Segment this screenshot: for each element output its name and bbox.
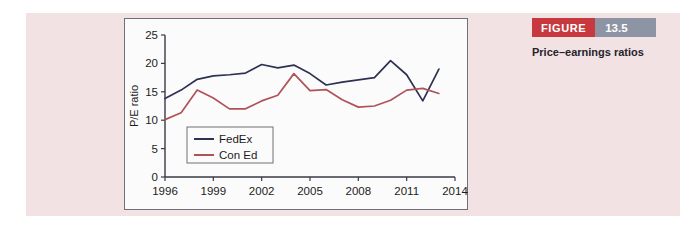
- y-tick-label: 20: [145, 57, 158, 69]
- figure-page: 05101520251996199920022005200820112014P/…: [0, 0, 692, 228]
- x-tick-label: 2011: [394, 185, 419, 197]
- left-gutter: [0, 0, 26, 228]
- x-tick-label: 1996: [152, 185, 178, 197]
- y-tick-label: 5: [152, 143, 158, 155]
- y-axis-title: P/E ratio: [128, 85, 140, 127]
- figure-banner-word: FIGURE: [532, 18, 595, 37]
- figure-caption: Price–earnings ratios: [532, 45, 662, 60]
- y-tick-label: 0: [152, 171, 158, 183]
- figure-banner-number: 13.5: [595, 18, 656, 37]
- y-tick-label: 10: [145, 114, 158, 126]
- y-tick-label: 15: [145, 86, 158, 98]
- x-tick-label: 2008: [346, 185, 372, 197]
- chart-container: 05101520251996199920022005200820112014P/…: [124, 18, 468, 210]
- x-tick-label: 1999: [201, 185, 227, 197]
- x-tick-label: 2014: [442, 185, 468, 197]
- pe-ratio-line-chart: 05101520251996199920022005200820112014P/…: [125, 19, 469, 211]
- x-tick-label: 2002: [249, 185, 275, 197]
- x-tick-label: 2005: [297, 185, 323, 197]
- y-tick-label: 25: [145, 29, 158, 41]
- legend-label-fedex: FedEx: [219, 133, 252, 145]
- figure-banner: FIGURE 13.5: [532, 18, 656, 37]
- series-line-con-ed: [165, 74, 439, 120]
- legend-label-con-ed: Con Ed: [219, 149, 257, 161]
